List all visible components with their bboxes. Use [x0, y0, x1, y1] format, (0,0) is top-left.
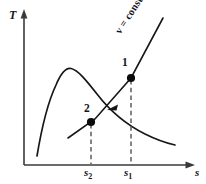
v-const-process-line [68, 18, 163, 138]
ts-diagram-figure: T s s2 s1 1 2 v = const. [0, 0, 206, 184]
state-point-2-marker [87, 118, 95, 126]
tick-label-s2: s2 [84, 167, 92, 181]
state-point-1-marker [127, 74, 135, 82]
temperature-axis-arrow-icon [21, 9, 28, 19]
tick-label-s1-subscript: 1 [128, 172, 132, 181]
state-point-2-label: 2 [84, 103, 90, 115]
ts-diagram-canvas [0, 0, 206, 184]
y-axis-label: T [9, 9, 16, 21]
state-point-1-label: 1 [122, 57, 128, 69]
tick-label-s1: s1 [124, 167, 132, 181]
saturation-dome-curve [37, 68, 175, 156]
tick-label-s2-subscript: 2 [88, 172, 92, 181]
entropy-axis-arrow-icon [186, 162, 196, 169]
x-axis-label: s [195, 167, 199, 178]
